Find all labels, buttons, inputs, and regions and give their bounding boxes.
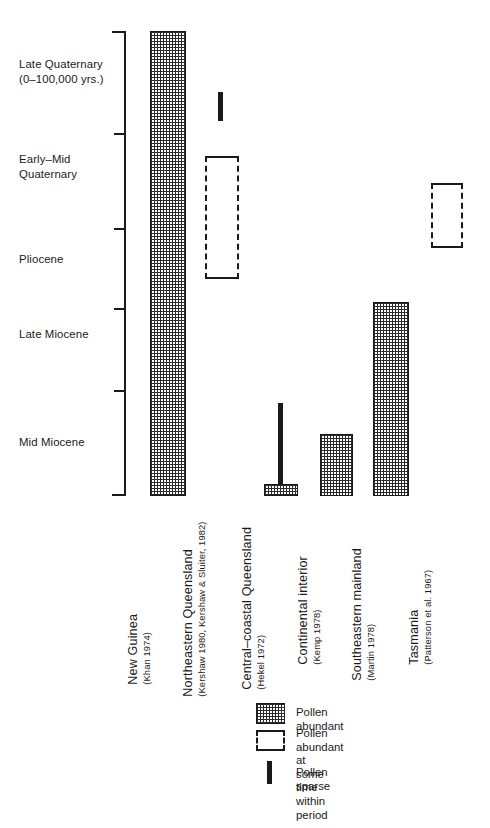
column-reference: (Martin 1978)	[366, 548, 376, 681]
column-reference: (Patterson et al. 1967)	[423, 570, 433, 665]
axis-tick-late-miocene	[114, 390, 126, 392]
period-label-mid-miocene: Mid Miocene	[19, 435, 123, 450]
column-caption-new-guinea: New Guinea (Khan 1974)	[127, 614, 152, 685]
column-caption-tasmania: Tasmania (Patterson et al. 1967)	[408, 570, 433, 665]
period-label-pliocene: Pliocene	[19, 252, 123, 267]
period-label-early-mid-quaternary: Early–Mid Quaternary	[19, 152, 123, 181]
column-name: Tasmania	[408, 570, 422, 665]
axis-tick-late-quaternary	[114, 133, 126, 135]
axis-tick-pliocene	[114, 308, 126, 310]
axis-tick-bottom	[112, 494, 126, 496]
period-label-late-quaternary: Late Quaternary (0–100,000 yrs.)	[19, 57, 123, 86]
column-name: Central–coastal Queensland	[241, 527, 255, 690]
bar-southeastern-mainland-abundant	[373, 302, 409, 496]
column-name: Southeastern mainland	[351, 548, 365, 681]
axis-spine	[124, 31, 126, 496]
column-reference: (Kershaw 1980, Kershaw & Sluiter, 1982)	[197, 521, 207, 696]
column-caption-continental-interior: Continental interior (Kemp 1978)	[297, 556, 322, 665]
legend-label: Pollen sparse	[296, 766, 330, 793]
bar-continental-interior-abundant	[320, 434, 353, 496]
bar-northeastern-queensland-dashed	[205, 156, 239, 279]
column-name: Continental interior	[297, 556, 311, 665]
pollen-record-figure: Late Quaternary (0–100,000 yrs.) Early–M…	[0, 0, 490, 828]
bar-central-coastal-queensland-sparse	[278, 403, 283, 487]
bar-tasmania-dashed	[431, 183, 463, 248]
column-reference: (Hekel 1972)	[256, 527, 266, 690]
column-reference: (Kemp 1978)	[312, 556, 322, 665]
column-name: Northeastern Queensland	[182, 521, 196, 696]
legend-swatch-dashed-icon	[256, 730, 285, 751]
column-caption-northeastern-queensland: Northeastern Queensland (Kershaw 1980, K…	[182, 521, 207, 696]
column-name: New Guinea	[127, 614, 141, 685]
bar-new-guinea-abundant	[150, 31, 186, 496]
legend-swatch-sparse-icon	[267, 761, 272, 784]
column-caption-southeastern-mainland: Southeastern mainland (Martin 1978)	[351, 548, 376, 681]
axis-tick-early-mid-quaternary	[114, 228, 126, 230]
column-reference: (Khan 1974)	[142, 614, 152, 685]
legend-swatch-solid-icon	[256, 703, 285, 724]
period-label-late-miocene: Late Miocene	[19, 327, 123, 342]
axis-tick-top	[112, 31, 126, 33]
bar-northeastern-queensland-sparse	[218, 92, 223, 121]
column-caption-central-coastal-queensland: Central–coastal Queensland (Hekel 1972)	[241, 527, 266, 690]
bar-central-coastal-queensland-abundant	[264, 484, 298, 496]
